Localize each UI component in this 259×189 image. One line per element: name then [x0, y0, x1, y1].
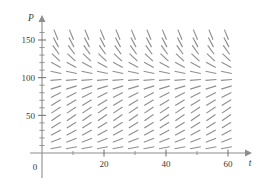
slope-segment: [113, 86, 124, 89]
slope-segment: [145, 54, 153, 62]
slope-segment: [67, 54, 75, 62]
slope-segment: [129, 62, 139, 67]
slope-segment: [190, 86, 201, 89]
slope-segment: [51, 93, 61, 98]
slope-segment: [51, 86, 62, 89]
slope-segment: [112, 79, 123, 80]
slope-segment: [67, 114, 76, 120]
slope-segment: [82, 86, 93, 89]
slope-segment: [175, 130, 185, 135]
x-axis-label: t: [249, 158, 252, 168]
slope-segment: [129, 93, 139, 98]
slope-segment: [67, 122, 76, 128]
slope-segment: [159, 147, 170, 149]
slope-segment: [175, 114, 184, 120]
slope-segment: [97, 71, 108, 73]
slope-segment: [82, 93, 92, 98]
slope-segment: [82, 130, 92, 135]
slope-segment: [129, 107, 138, 113]
slope-segment: [98, 107, 107, 113]
slope-segment: [128, 86, 139, 89]
slope-segment: [51, 62, 61, 67]
slope-segment: [175, 93, 185, 98]
slope-segment: [66, 138, 76, 142]
slope-segment: [144, 138, 154, 142]
slope-segment: [98, 122, 107, 128]
slope-segment: [113, 147, 124, 149]
slope-segment: [222, 130, 232, 135]
slope-segment: [128, 147, 139, 149]
slope-segment: [222, 100, 231, 106]
slope-segment: [144, 107, 153, 113]
slope-segment: [175, 62, 185, 67]
slope-segment: [205, 79, 216, 80]
slope-segment: [113, 93, 123, 98]
slope-segment: [66, 79, 77, 80]
slope-segment: [160, 122, 169, 128]
slope-segment: [160, 54, 168, 62]
slope-segment: [97, 147, 108, 149]
slope-segment: [160, 114, 169, 120]
y-axis-tick-label: 50: [26, 111, 36, 121]
slope-segment: [82, 138, 92, 142]
slope-segment: [206, 122, 215, 128]
slope-segment: [206, 86, 217, 89]
slope-segment: [206, 93, 216, 98]
slope-segment: [221, 138, 231, 142]
slope-segment: [175, 100, 184, 106]
slope-segment: [97, 86, 108, 89]
slope-segment: [52, 54, 60, 62]
slope-segment: [82, 147, 93, 149]
slope-segment: [144, 100, 153, 106]
slope-segment: [128, 79, 139, 80]
slope-segment: [176, 54, 184, 62]
slope-segment: [191, 122, 200, 128]
slope-segment: [221, 147, 232, 149]
slope-segment: [129, 122, 138, 128]
slope-segment: [160, 107, 169, 113]
slope-segment: [159, 79, 170, 80]
slope-segment: [159, 138, 169, 142]
slope-segment: [159, 71, 170, 73]
slope-segment: [113, 130, 123, 135]
slope-segment: [175, 147, 186, 149]
slope-segment: [221, 71, 232, 73]
slope-segment: [66, 86, 77, 89]
slope-segment: [113, 122, 122, 128]
y-axis-label: P: [27, 13, 34, 23]
slope-segment: [82, 100, 91, 106]
slope-segment: [51, 100, 60, 106]
slope-segment: [129, 54, 137, 62]
slope-segment: [82, 62, 92, 67]
slope-segment: [128, 71, 139, 73]
slope-segment: [82, 71, 93, 73]
slope-segment: [206, 147, 217, 149]
slope-segment: [221, 79, 232, 80]
slope-segment: [81, 79, 92, 80]
slope-segment: [191, 130, 201, 135]
slope-segment: [159, 86, 170, 89]
slope-segment: [113, 114, 122, 120]
slope-segment: [67, 107, 76, 113]
slope-segment: [190, 138, 200, 142]
slope-segment: [98, 100, 107, 106]
slope-segment: [160, 100, 169, 106]
slope-segment: [143, 79, 154, 80]
slope-segment: [129, 130, 139, 135]
slope-segment: [191, 100, 200, 106]
slope-segment: [66, 71, 77, 73]
slope-segment: [67, 93, 77, 98]
x-axis-arrow-icon: [245, 150, 252, 157]
slope-segment: [98, 93, 108, 98]
slope-field-figure: 20406050100150 P t 0: [0, 0, 259, 189]
slope-segment: [50, 79, 61, 80]
slope-segment: [175, 122, 184, 128]
x-axis-tick-label: 20: [100, 159, 110, 169]
slope-segment: [51, 114, 60, 120]
slope-segment: [144, 86, 155, 89]
slope-segment: [160, 130, 170, 135]
slope-segment: [175, 71, 186, 73]
slope-segment: [191, 54, 199, 62]
slope-segment: [113, 100, 122, 106]
y-axis-arrow-icon: [39, 15, 46, 22]
